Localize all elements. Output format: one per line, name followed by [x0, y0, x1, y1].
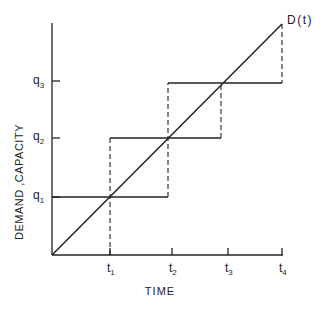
demand-curve-label: D(t) — [287, 13, 313, 27]
y-axis-label: DEMAND ,CAPACITY — [13, 124, 25, 240]
x-label-t1: t1 — [107, 261, 115, 277]
x-axis-label: TIME — [145, 285, 175, 297]
demand-capacity-diagram: DEMAND ,CAPACITY q1 q2 q3 t1 t2 t3 t4 TI… — [0, 0, 325, 309]
y-label-q1: q1 — [33, 188, 45, 205]
x-label-t4: t4 — [279, 261, 287, 277]
x-label-t2: t2 — [169, 261, 177, 277]
x-label-t3: t3 — [225, 261, 233, 277]
y-label-q2: q2 — [33, 129, 45, 146]
y-label-q3: q3 — [33, 73, 45, 90]
demand-line — [52, 24, 282, 255]
